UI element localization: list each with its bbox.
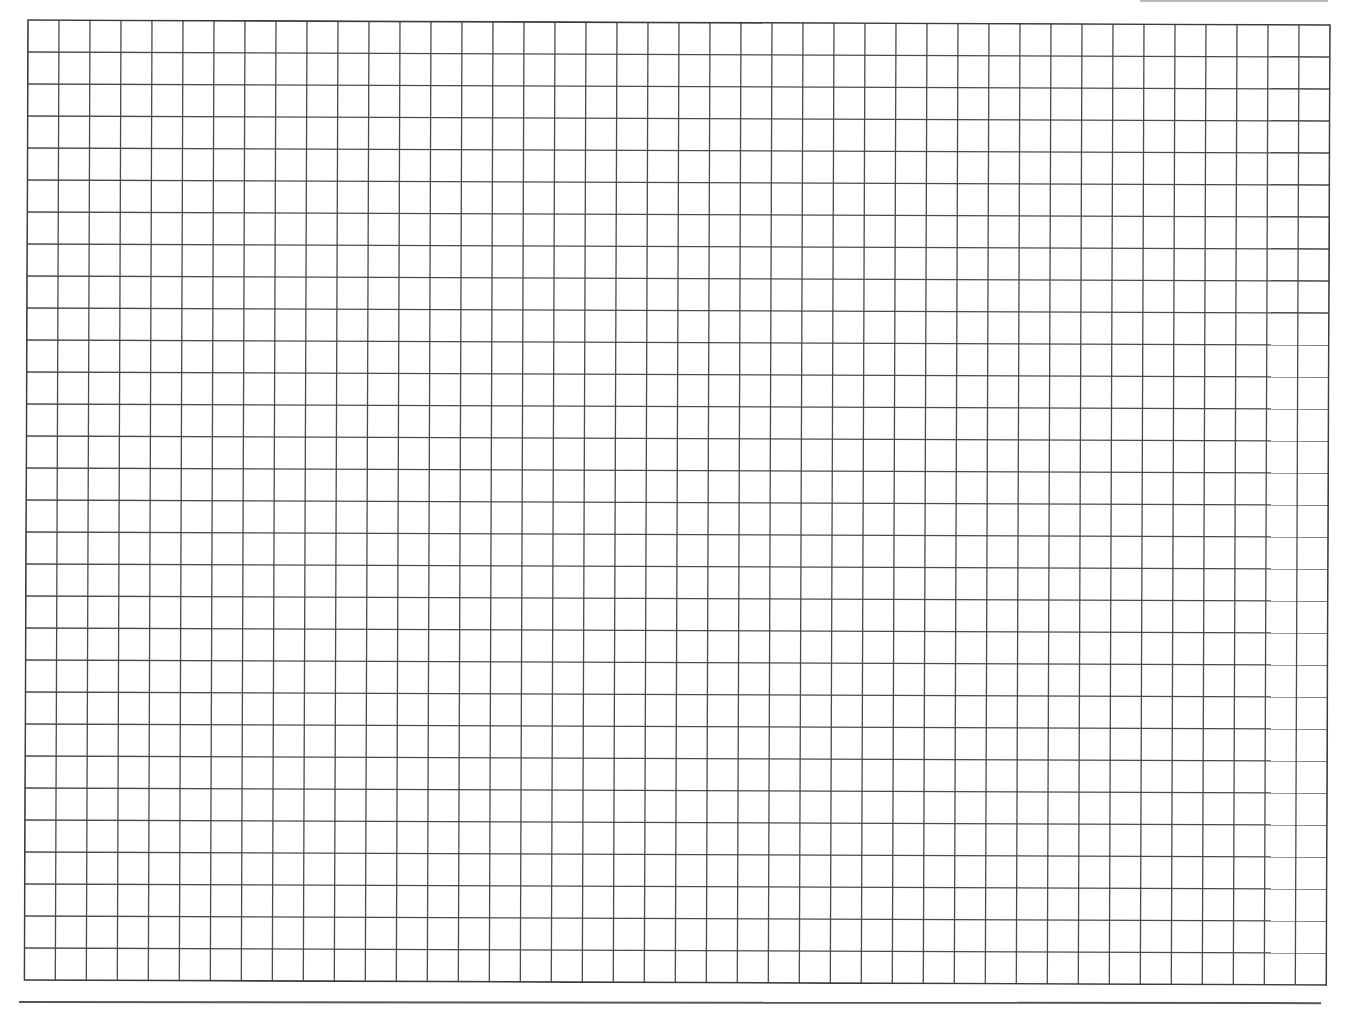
graph-grid — [23, 19, 1329, 985]
top-edge-line — [1140, 0, 1328, 2]
bottom-rule-line — [19, 1001, 1321, 1004]
grid-lines — [23, 19, 1331, 986]
graph-paper-page — [0, 0, 1346, 1016]
